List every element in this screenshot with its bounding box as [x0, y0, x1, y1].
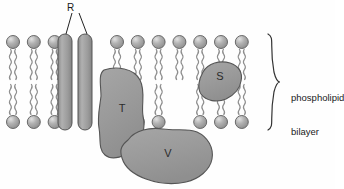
- phospholipid: [7, 84, 20, 129]
- lipid-head: [194, 116, 207, 129]
- lipid-head: [152, 36, 165, 49]
- lipid-head: [173, 36, 186, 49]
- bilayer-brace: [268, 34, 280, 130]
- lipid-head: [131, 36, 144, 49]
- protein-letter-T: T: [119, 102, 126, 114]
- phospholipid: [7, 36, 20, 81]
- lipid-head: [27, 116, 40, 129]
- lipid-head: [235, 116, 248, 129]
- lipid-head: [111, 36, 124, 49]
- transmembrane-protein-rod: [58, 34, 72, 130]
- phospholipid: [27, 84, 40, 129]
- lipid-head: [194, 36, 207, 49]
- lipid-head: [152, 116, 165, 129]
- lipid-head: [215, 116, 228, 129]
- membrane-protein-V: V: [121, 128, 213, 183]
- receptor-leader-lines: [66, 13, 87, 34]
- protein-letter-V: V: [164, 147, 172, 159]
- bilayer-label-line1: phospholipid: [291, 92, 344, 103]
- phospholipid: [152, 36, 165, 81]
- receptor-label: R: [67, 2, 74, 14]
- membrane-protein-S: S: [199, 62, 242, 101]
- lipid-head: [7, 36, 20, 49]
- protein-letter-S: S: [216, 70, 223, 82]
- phospholipid: [173, 36, 186, 81]
- lipid-head: [235, 36, 248, 49]
- membrane-proteins: TSV: [58, 34, 242, 183]
- phospholipid: [152, 84, 165, 129]
- bilayer-label: phospholipid bilayer: [291, 70, 344, 160]
- bilayer-label-line2: bilayer: [291, 126, 344, 137]
- lipid-head: [215, 36, 228, 49]
- transmembrane-protein-rod: [78, 34, 92, 130]
- phospholipid: [27, 36, 40, 81]
- lipid-head: [7, 116, 20, 129]
- lipid-head: [27, 36, 40, 49]
